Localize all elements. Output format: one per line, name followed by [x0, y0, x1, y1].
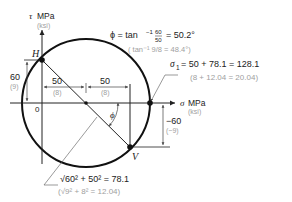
dim-center-offset-label: 50 — [52, 76, 62, 86]
dim-half-width-label: 50 — [100, 76, 110, 86]
origin-label: 0 — [35, 105, 40, 114]
sigma1-alt: (8 + 12.04 = 20.04) — [190, 73, 258, 82]
phi-eq-sup: −1 — [146, 29, 154, 35]
point-v-label: V — [132, 151, 140, 162]
radius-alt: (√9² + 8² = 12.04) — [58, 187, 121, 196]
dim-tau-xy-alt: (9) — [10, 83, 19, 91]
sigma1-equation: σ 1 = 50 + 78.1 = 128.1 (8 + 12.04 = 20.… — [170, 59, 259, 82]
phi-eq-rhs: = 50.2° — [166, 30, 195, 40]
dim-neg-tau-alt: (−9) — [166, 127, 179, 135]
tau-unit: MPa — [37, 11, 55, 21]
point-h-label: H — [31, 48, 40, 59]
sigma-unit: MPa — [188, 98, 206, 108]
dim-tau-xy-label: 60 — [10, 72, 20, 82]
sigma1-text: = 50 + 78.1 = 128.1 — [181, 59, 259, 69]
sigma-symbol: σ — [180, 98, 185, 108]
phi-eq-den: 50 — [155, 37, 162, 43]
mohr-circle-diagram: τ MPa (ksi) σ MPa (ksi) 0 H V 60 (9) 50 … — [0, 0, 292, 202]
radius-equation: √60² + 50² = 78.1 (√9² + 8² = 12.04) — [58, 174, 129, 196]
sigma1-symbol: σ — [170, 59, 175, 69]
sigma-unit-alt: (ksi) — [188, 108, 201, 116]
sigma1-subscript: 1 — [176, 64, 180, 71]
phi-eq-lhs: ϕ = tan — [110, 30, 138, 40]
dim-center-offset-alt: (8) — [53, 89, 62, 97]
dim-half-width-alt: (8) — [101, 89, 110, 97]
sigma1-leader — [151, 75, 178, 101]
tau-symbol: τ — [29, 11, 33, 21]
dim-neg-tau-label: −60 — [166, 116, 181, 126]
phi-label: ϕ — [110, 110, 115, 120]
point-h — [39, 57, 45, 63]
phi-eq-alt: ( tan⁻¹ 9/8 = 48.4°) — [128, 45, 191, 54]
point-v — [127, 144, 133, 150]
radius-text: √60² + 50² = 78.1 — [60, 174, 129, 184]
sigma1-point — [147, 100, 153, 106]
center-point — [84, 101, 88, 105]
tau-unit-alt: (ksi) — [37, 22, 50, 30]
phi-eq-num: 60 — [155, 29, 162, 35]
